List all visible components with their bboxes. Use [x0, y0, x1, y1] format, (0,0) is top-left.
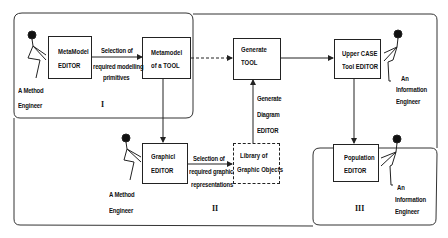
- selection-primitives-label-3: primitives: [103, 74, 129, 82]
- library-line2: Graphic Objects: [237, 166, 283, 174]
- metamodel-tool-line1: Metamodel: [151, 49, 182, 57]
- region-i-label: I: [101, 100, 104, 109]
- generate-tool-line2: TOOL: [241, 59, 257, 67]
- info-engineer-1-label-3: Engineer: [396, 98, 420, 106]
- population-line1: Population: [344, 154, 375, 162]
- method-engineer-1-label-1: A Method: [18, 87, 44, 95]
- method-engineer-2-label-2: Engineer: [109, 207, 133, 215]
- upper-case-tool-editor-box: Upper CASE Tool EDITOR: [334, 39, 381, 79]
- info-engineer-figure-2: [381, 135, 401, 185]
- upper-case-line2: Tool EDITOR: [342, 63, 378, 71]
- generate-diagram-label-3: EDITOR: [257, 127, 278, 135]
- metamodel-editor-line1: MetaModel: [58, 48, 89, 56]
- method-engineer-1-label-2: Engineer: [18, 102, 42, 110]
- info-engineer-1-label-1: An: [401, 75, 409, 83]
- method-engineer-figure-2: [122, 134, 141, 180]
- info-engineer-2-label-2: Information: [395, 196, 426, 204]
- selection-primitives-label-2: required modelling: [93, 63, 144, 71]
- metamodel-tool-box: Metamodel of a TOOL: [142, 37, 191, 79]
- method-engineer-figure-1: [28, 31, 46, 78]
- info-engineer-2-label-3: Engineer: [395, 208, 419, 216]
- population-line2: EDITOR: [344, 167, 366, 175]
- selection-primitives-label-1: Selection of: [101, 47, 133, 55]
- graphic-editor-line2: EDITOR: [151, 167, 173, 175]
- metamodel-editor-box: MetaModel EDITOR: [48, 36, 92, 79]
- generate-tool-line1: Generate: [241, 46, 267, 54]
- generate-tool-box: Generate TOOL: [233, 38, 281, 80]
- metamodel-tool-line2: of a TOOL: [151, 62, 180, 70]
- graphic-editor-box: Graphicl EDITOR: [142, 143, 188, 184]
- diagram-canvas: MetaModel EDITOR Metamodel of a TOOL Gen…: [0, 0, 448, 238]
- region-ii-label: II: [212, 204, 218, 213]
- population-editor-box: Population EDITOR: [333, 144, 379, 182]
- graphic-editor-line1: Graphicl: [151, 153, 175, 161]
- generate-diagram-label-2: Diagram: [257, 111, 280, 119]
- method-engineer-2-label-1: A Method: [109, 191, 135, 199]
- library-graphic-objects-box: Library of Graphic Objects: [233, 143, 280, 184]
- generate-diagram-label-1: Generate: [257, 95, 281, 103]
- info-engineer-figure-1: [384, 30, 402, 81]
- selection-graphic-label-3: representations: [191, 181, 233, 189]
- info-engineer-2-label-1: An: [397, 184, 405, 192]
- info-engineer-1-label-2: Information: [396, 86, 427, 94]
- metamodel-editor-line2: EDITOR: [58, 62, 80, 70]
- region-iii-label: III: [355, 204, 364, 213]
- upper-case-line1: Upper CASE: [342, 50, 377, 58]
- selection-graphic-label-2: required graphic: [189, 168, 233, 176]
- selection-graphic-label-1: Selection of: [193, 155, 225, 163]
- library-line1: Library of: [240, 152, 267, 160]
